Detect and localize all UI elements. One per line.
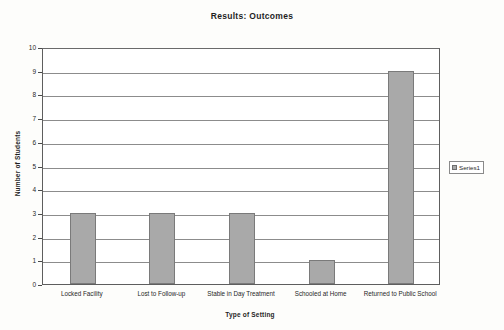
y-tick-mark bbox=[38, 261, 42, 262]
y-tick-mark bbox=[38, 119, 42, 120]
y-tick-mark bbox=[38, 72, 42, 73]
bar bbox=[229, 213, 255, 284]
chart-legend: Series1 bbox=[449, 161, 484, 174]
y-tick-mark bbox=[38, 238, 42, 239]
gridline bbox=[43, 96, 439, 97]
x-tick-label: Stable in Day Treatment bbox=[201, 290, 281, 299]
gridline bbox=[43, 191, 439, 192]
x-tick-label: Lost to Follow-up bbox=[122, 290, 202, 299]
x-tick-label: Returned to Public School bbox=[360, 290, 440, 299]
y-tick-mark bbox=[38, 143, 42, 144]
y-tick-label: 0 bbox=[10, 281, 36, 288]
y-tick-label: 9 bbox=[10, 68, 36, 75]
gridline bbox=[43, 73, 439, 74]
y-tick-label: 6 bbox=[10, 139, 36, 146]
y-tick-mark bbox=[38, 214, 42, 215]
bar-chart: Results: Outcomes Number of Students 012… bbox=[0, 0, 504, 330]
y-tick-label: 2 bbox=[10, 234, 36, 241]
bar bbox=[388, 71, 414, 284]
bar bbox=[149, 213, 175, 284]
y-tick-label: 8 bbox=[10, 91, 36, 98]
y-tick-label: 7 bbox=[10, 115, 36, 122]
gridline bbox=[43, 120, 439, 121]
chart-title: Results: Outcomes bbox=[0, 11, 504, 21]
y-tick-label: 1 bbox=[10, 257, 36, 264]
gridline bbox=[43, 144, 439, 145]
legend-label-series1: Series1 bbox=[459, 164, 480, 171]
y-tick-mark bbox=[38, 95, 42, 96]
plot-area bbox=[42, 48, 440, 285]
bar bbox=[70, 213, 96, 284]
x-tick-label: Locked Facility bbox=[42, 290, 122, 299]
bar bbox=[309, 260, 335, 284]
legend-swatch-series1 bbox=[452, 165, 457, 170]
gridline bbox=[43, 168, 439, 169]
y-tick-label: 3 bbox=[10, 210, 36, 217]
y-tick-label: 5 bbox=[10, 163, 36, 170]
y-tick-mark bbox=[38, 48, 42, 49]
y-tick-label: 4 bbox=[10, 186, 36, 193]
y-tick-label: 10 bbox=[10, 44, 36, 51]
x-axis-title: Type of Setting bbox=[142, 311, 358, 318]
y-tick-mark bbox=[38, 285, 42, 286]
x-tick-label: Schooled at Home bbox=[281, 290, 361, 299]
y-tick-mark bbox=[38, 190, 42, 191]
y-tick-mark bbox=[38, 167, 42, 168]
